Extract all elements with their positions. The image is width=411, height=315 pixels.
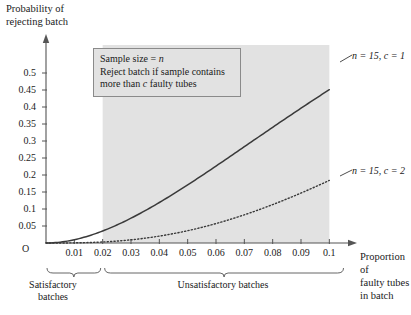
y-tick-label-8: 0.45 (6, 84, 36, 95)
series-label-c1: n = 15, c = 1 (352, 50, 405, 61)
y-tick-label-4: 0.25 (6, 152, 36, 163)
y-tick-label-1: 0.1 (6, 203, 36, 214)
origin-label: O (22, 243, 29, 254)
annotation-textbox: Sample size = n Reject batch if sample c… (93, 48, 241, 97)
y-tick-label-5: 0.3 (6, 135, 36, 146)
series-label-c2: n = 15, c = 2 (352, 165, 405, 176)
bracket-unsatisfactory (105, 268, 344, 277)
textbox-line-3: more than c faulty tubes (100, 78, 234, 91)
textbox-line-1: Sample size = n (100, 53, 234, 66)
textbox-line-2: Reject batch if sample contains (100, 66, 234, 79)
leader-line-c2 (340, 170, 352, 176)
bracket-label-unsatisfactory: Unsatisfactory batches (148, 279, 298, 291)
y-tick-label-9: 0.5 (6, 67, 36, 78)
bracket-label-satisfactory: Satisfactory batches (12, 279, 94, 303)
x-axis-arrowhead (348, 240, 357, 246)
y-axis-arrowhead (43, 34, 49, 43)
y-tick-label-3: 0.2 (6, 169, 36, 180)
x-tick-label-9: 0.1 (312, 247, 346, 258)
chart-figure: Probability of rejecting batch Proportio… (0, 0, 411, 315)
y-tick-label-6: 0.35 (6, 118, 36, 129)
bracket-satisfactory (47, 268, 101, 277)
y-tick-label-2: 0.15 (6, 186, 36, 197)
y-tick-label-7: 0.4 (6, 101, 36, 112)
y-tick-label-0: 0.05 (6, 220, 36, 231)
leader-line-c1 (340, 55, 352, 62)
